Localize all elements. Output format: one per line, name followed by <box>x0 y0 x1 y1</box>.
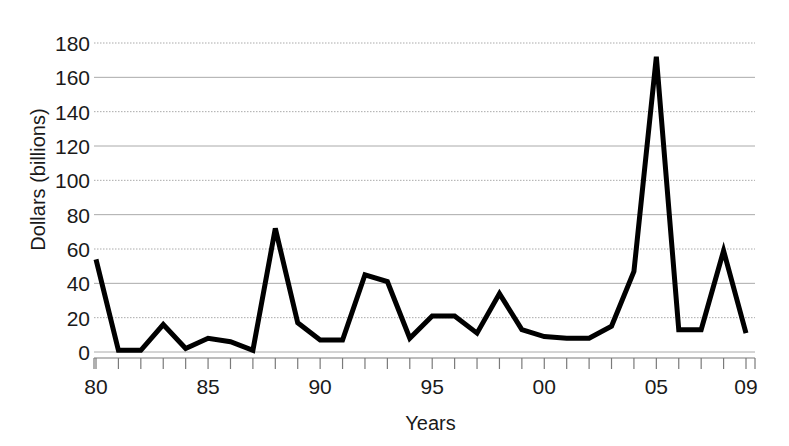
x-tick-label: 80 <box>84 376 107 397</box>
x-tick-label: 90 <box>308 376 331 397</box>
x-tick-label: 95 <box>421 376 444 397</box>
x-axis-title-text: Years <box>333 412 455 434</box>
x-tick-label: 05 <box>645 376 668 397</box>
x-tick-label: 85 <box>196 376 219 397</box>
x-axis-title: Years <box>0 412 789 435</box>
x-axis-tick-labels: 80859095000509 <box>0 0 789 446</box>
line-chart: Dollars (billions) 020406080100120140160… <box>0 0 789 446</box>
x-tick-label: 00 <box>533 376 556 397</box>
x-tick-label: 09 <box>734 376 757 397</box>
